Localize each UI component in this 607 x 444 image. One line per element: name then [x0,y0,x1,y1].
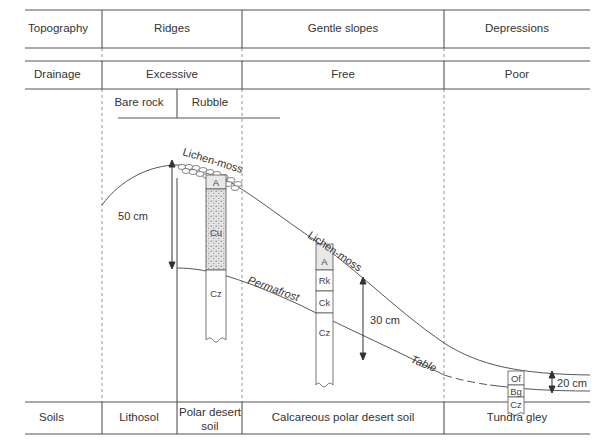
table-label: Table [409,353,438,374]
calcareous-profile: A Rk Ck Cz [316,244,333,387]
permafrost-table-dashed [444,375,490,385]
horizon-Cz: Cz [510,399,522,410]
drainage-excessive: Excessive [146,68,198,80]
polar-desert-profile: A Cu Cz [206,175,226,342]
drainage-poor: Poor [505,68,529,80]
horizon-A: A [213,177,220,188]
tundra-gley-profile: Of Bg Cz [508,371,524,416]
topography-gentle-slopes: Gentle slopes [308,22,378,34]
lichen-moss-label-slope: Lichen-moss [306,229,365,274]
soil-calcareous-polar-desert: Calcareous polar desert soil [272,411,415,423]
depth-arrow-30cm [360,277,366,360]
soil-polar-desert-line1: Polar desert [179,405,241,419]
drainage-free: Free [331,68,355,80]
horizon-Cz: Cz [210,288,222,299]
topography-row-label: Topography [28,22,88,34]
horizon-Rk: Rk [319,275,331,286]
horizon-Of: Of [511,373,521,384]
horizon-Ck: Ck [319,297,331,308]
soil-polar-desert-line2: soil [179,419,241,433]
depth-label-30cm: 30 cm [370,314,400,326]
topography-depressions: Depressions [485,22,549,34]
horizon-Bg: Bg [510,386,522,397]
soils-row-label: Soils [39,411,64,423]
soil-catena-diagram: A Cu Cz A Rk Ck Cz Of Bg Cz Liche [0,0,607,444]
permafrost-label: Permafrost [246,274,302,304]
soil-tundra-gley: Tundra gley [487,411,547,423]
drainage-row-label: Drainage [34,68,81,80]
ground-surface-curve [102,165,590,375]
depth-arrow-50cm [169,160,175,269]
substrate-bare-rock: Bare rock [114,96,163,108]
soil-polar-desert: Polar desert soil [179,405,241,433]
horizon-A: A [321,256,328,267]
horizon-Cu: Cu [210,227,222,238]
horizon-Cz: Cz [319,327,331,338]
substrate-rubble: Rubble [192,96,228,108]
soil-lithosol: Lithosol [119,411,159,423]
topography-ridges: Ridges [154,22,190,34]
depth-label-50cm: 50 cm [118,210,148,222]
depth-label-20cm: 20 cm [557,377,587,389]
